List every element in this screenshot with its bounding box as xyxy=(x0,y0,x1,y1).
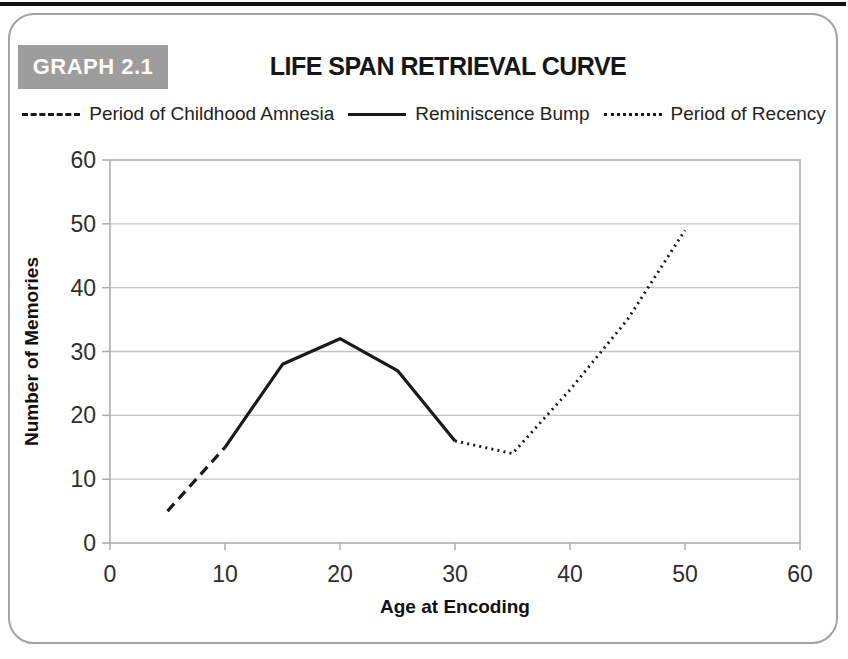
svg-text:40: 40 xyxy=(557,561,583,587)
svg-text:60: 60 xyxy=(787,561,813,587)
svg-text:0: 0 xyxy=(83,530,96,556)
svg-text:40: 40 xyxy=(70,275,96,301)
svg-text:20: 20 xyxy=(70,402,96,428)
svg-text:30: 30 xyxy=(70,339,96,365)
svg-text:50: 50 xyxy=(70,211,96,237)
svg-text:60: 60 xyxy=(70,147,96,173)
svg-text:10: 10 xyxy=(212,561,238,587)
svg-text:Age at Encoding: Age at Encoding xyxy=(380,596,530,617)
svg-text:Number of Memories: Number of Memories xyxy=(21,257,42,446)
svg-text:20: 20 xyxy=(327,561,353,587)
svg-text:0: 0 xyxy=(104,561,117,587)
svg-text:30: 30 xyxy=(442,561,468,587)
svg-text:10: 10 xyxy=(70,466,96,492)
chart-plot: 01020304050600102030405060Age at Encodin… xyxy=(0,0,848,659)
svg-text:50: 50 xyxy=(672,561,698,587)
